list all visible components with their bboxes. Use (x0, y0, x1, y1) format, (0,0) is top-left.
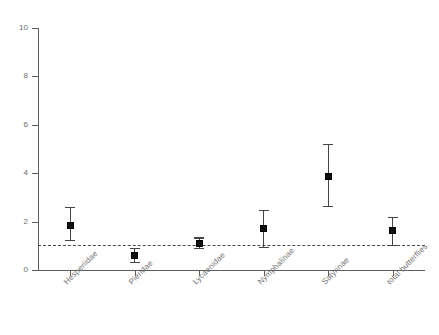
y-tick-label-2: 2 (0, 218, 28, 226)
error-bar-cap-lower (259, 247, 269, 248)
error-bar-cap-lower (65, 240, 75, 241)
mean-marker (389, 227, 396, 234)
x-label-hesperiidae: Hesperiidae (62, 249, 99, 286)
error-bar-cap-upper (65, 207, 75, 208)
y-tick-label-10: 10 (0, 24, 28, 32)
y-tick-label-8: 8 (0, 72, 28, 80)
error-bar-cap-lower (388, 245, 398, 246)
reference-line-at-one (38, 245, 425, 246)
x-label-total-butterflies: total butterflies (385, 242, 429, 286)
error-bar-cap-lower (130, 262, 140, 263)
error-bar-cap-lower (194, 248, 204, 249)
y-tick-0 (32, 270, 38, 271)
error-bar-cap-upper (323, 144, 333, 145)
y-tick-label-6: 6 (0, 121, 28, 129)
y-tick-6 (32, 125, 38, 126)
x-label-nymphalinae: Nymphalinae (256, 246, 296, 286)
mean-marker (67, 222, 74, 229)
error-bar-chart: 0246810 HesperiidaePieridaeLycaenidaeNym… (0, 0, 439, 335)
y-tick-4 (32, 173, 38, 174)
y-tick-8 (32, 76, 38, 77)
error-bar-cap-upper (259, 210, 269, 211)
error-bar-cap-upper (194, 237, 204, 238)
x-axis-line (38, 270, 425, 271)
x-label-pieridae: Pieridae (127, 259, 155, 287)
y-axis-line (38, 28, 39, 271)
y-tick-label-0: 0 (0, 266, 28, 274)
mean-marker (325, 173, 332, 180)
mean-marker (196, 240, 203, 247)
error-bar-cap-lower (323, 206, 333, 207)
y-tick-label-4: 4 (0, 169, 28, 177)
mean-marker (131, 252, 138, 259)
mean-marker (260, 225, 267, 232)
y-tick-10 (32, 28, 38, 29)
x-label-lycaenidae: Lycaenidae (191, 251, 227, 287)
error-bar-cap-upper (130, 248, 140, 249)
error-bar-cap-upper (388, 217, 398, 218)
y-tick-2 (32, 222, 38, 223)
